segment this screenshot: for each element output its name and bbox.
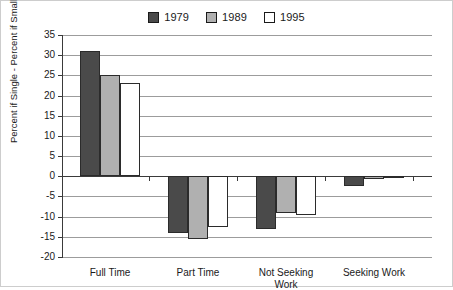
legend-label-1995: 1995 [280,12,305,23]
bar-1979-part-time [168,176,188,233]
gridline [63,196,432,197]
y-axis-tick [58,217,63,218]
bar-1995-full-time [120,83,140,176]
x-axis-label: Part Time [152,267,244,279]
y-axis-tick-label: -15 [31,232,55,242]
y-axis-tick [58,237,63,238]
legend-swatch-1979 [148,12,159,23]
y-axis-tick [58,257,63,258]
y-axis-tick-label: -5 [31,191,55,201]
y-axis-tick-label: -20 [31,252,55,262]
y-axis-tick-label: 25 [31,70,55,80]
x-axis-label: Seeking Work [328,267,420,279]
legend-entry-1989: 1989 [206,12,247,23]
gridline [63,217,432,218]
y-axis-tick-label: 30 [31,50,55,60]
y-axis-tick [58,35,63,36]
category-tick [413,176,414,181]
bar-1995-part-time [208,176,228,226]
legend-swatch-1989 [206,12,217,23]
y-axis-line [62,35,63,257]
legend-label-1989: 1989 [222,12,247,23]
y-axis-tick [58,96,63,97]
y-axis-title: Percent if Single - Percent if Small Chi… [9,0,19,161]
bar-1979-full-time [80,51,100,176]
bar-1995-not-seeking-work [296,176,316,214]
y-axis-tick-label: 10 [31,131,55,141]
y-axis-tick [58,156,63,157]
x-axis-label: Not Seeking Work [240,267,332,290]
category-tick [149,176,150,181]
bar-1989-not-seeking-work [276,176,296,212]
y-axis-tick-label: 35 [31,30,55,40]
gridline [63,257,432,258]
y-axis-tick [58,176,63,177]
x-axis-label: Full Time [64,267,156,279]
y-axis-tick-label: 0 [31,171,55,181]
y-axis-tick [58,196,63,197]
bar-1989-seeking-work [364,176,384,179]
legend-swatch-1995 [264,12,275,23]
y-axis-tick-label: 20 [31,91,55,101]
gridline [63,55,432,56]
y-axis-tick-label: 5 [31,151,55,161]
bar-1979-not-seeking-work [256,176,276,228]
legend-entry-1979: 1979 [148,12,189,23]
category-tick [237,176,238,181]
bar-1989-part-time [188,176,208,239]
bar-1979-seeking-work [344,176,364,186]
bar-1989-full-time [100,75,120,176]
category-tick [325,176,326,181]
legend-entry-1995: 1995 [264,12,305,23]
legend-label-1979: 1979 [164,12,189,23]
y-axis-tick-label: -10 [31,212,55,222]
bar-1995-seeking-work [384,176,404,178]
plot-area: 35302520151050-5-10-15-20 Full TimePart … [63,35,432,257]
gridline [63,237,432,238]
y-axis-tick-label: 15 [31,111,55,121]
y-axis-tick [58,55,63,56]
gridline [63,35,432,36]
y-axis-tick [58,116,63,117]
y-axis-tick [58,75,63,76]
chart-legend: 1979 1989 1995 [1,12,452,23]
y-axis-tick [58,136,63,137]
